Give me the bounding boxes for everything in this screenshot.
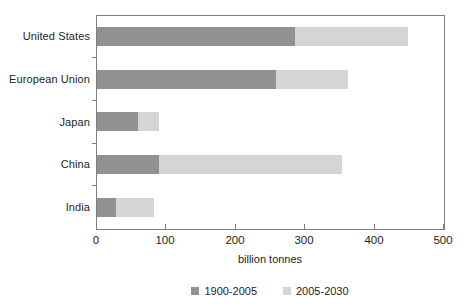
bar-segment-1900-2005 [97,112,138,131]
bar-segment-2005-2030 [276,70,348,89]
bar-segment-2005-2030 [159,155,342,174]
legend-swatch-icon [191,287,199,295]
x-axis-tick-label-100: 100 [155,233,174,247]
bar-segment-1900-2005 [97,155,159,174]
legend-swatch-icon [283,287,291,295]
bar-segment-2005-2030 [295,27,408,46]
x-axis-tick [235,224,236,229]
x-axis-tick [374,224,375,229]
bar-segment-2005-2030 [138,112,159,131]
x-axis-tick [165,224,166,229]
category-label-european-union: European Union [0,73,90,85]
legend-label-1900-2005: 1900-2005 [204,285,257,298]
x-axis-tick [96,224,97,229]
bar-segment-1900-2005 [97,27,295,46]
x-axis-tick-label-200: 200 [225,233,244,247]
x-axis-tick-labels: 0 100 200 300 400 500 [96,233,444,249]
category-label-united-states: United States [0,30,90,42]
x-axis-title: billion tonnes [96,252,444,266]
bars-layer [97,16,443,228]
legend-item-1900-2005: 1900-2005 [191,285,257,298]
chart-title-clipped [0,0,468,6]
x-axis-tick-label-500: 500 [433,233,452,247]
category-label-india: India [0,201,90,213]
bar-segment-1900-2005 [97,70,276,89]
category-label-china: China [0,158,90,170]
x-axis-tick [304,224,305,229]
x-axis-tick-label-300: 300 [294,233,313,247]
x-axis-tick-label-0: 0 [93,233,99,247]
chart-legend: 1900-2005 2005-2030 [96,283,444,299]
y-axis-category-labels: United States European Union Japan China… [0,15,90,228]
x-axis-tick [443,224,444,229]
x-axis-tick-label-400: 400 [364,233,383,247]
legend-label-2005-2030: 2005-2030 [296,285,349,298]
legend-item-2005-2030: 2005-2030 [283,285,349,298]
stacked-bar-chart: United States European Union Japan China… [0,0,468,306]
bar-segment-2005-2030 [116,198,154,217]
bar-segment-1900-2005 [97,198,116,217]
category-label-japan: Japan [0,116,90,128]
